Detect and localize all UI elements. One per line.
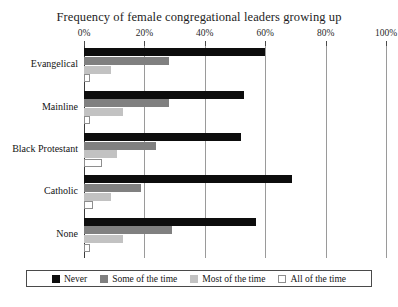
legend-item[interactable]: Most of the time	[190, 274, 265, 284]
category-group: Black Protestant	[84, 131, 386, 173]
x-tick-label-80pct: 80%	[317, 28, 334, 38]
legend-label: Never	[64, 274, 87, 284]
chart-title: Frequency of female congregational leade…	[0, 10, 398, 25]
legend-item[interactable]: Never	[52, 274, 87, 284]
bar	[84, 150, 117, 158]
legend-swatch-icon	[52, 275, 60, 283]
x-tick-label-0pct: 0%	[78, 28, 91, 38]
bar	[84, 66, 111, 74]
gridline-100	[386, 46, 387, 258]
x-tick-label-60pct: 60%	[256, 28, 273, 38]
bar	[84, 226, 172, 234]
legend-label: All of the time	[290, 274, 346, 284]
x-tick-label-40pct: 40%	[196, 28, 213, 38]
x-tick-label-100pct: 100%	[375, 28, 397, 38]
bar	[84, 74, 90, 82]
bar	[84, 218, 256, 226]
chart-container: Frequency of female congregational leade…	[0, 0, 398, 307]
category-group: Evangelical	[84, 46, 386, 88]
bar	[84, 57, 169, 65]
y-axis-category-label: Mainline	[42, 101, 78, 112]
bar	[84, 99, 169, 107]
bar	[84, 116, 90, 124]
y-axis-category-label: Evangelical	[31, 58, 78, 69]
x-axis-tick-labels: 0%20%40%60%80%100%	[84, 28, 386, 42]
legend-item[interactable]: All of the time	[278, 274, 346, 284]
figure-caption	[0, 297, 398, 307]
legend-label: Some of the time	[112, 274, 177, 284]
legend-swatch-icon	[278, 275, 286, 283]
bar	[84, 142, 156, 150]
y-axis-category-label: None	[56, 228, 78, 239]
bar	[84, 193, 111, 201]
bar	[84, 184, 141, 192]
legend-swatch-icon	[190, 275, 198, 283]
bar	[84, 244, 90, 252]
legend-swatch-icon	[100, 275, 108, 283]
category-group: None	[84, 216, 386, 258]
bar	[84, 48, 265, 56]
bar	[84, 159, 102, 167]
legend-label: Most of the time	[202, 274, 265, 284]
category-group: Catholic	[84, 173, 386, 215]
y-axis-category-label: Black Protestant	[12, 143, 78, 154]
chart-legend: NeverSome of the timeMost of the timeAll…	[26, 270, 372, 287]
bar	[84, 175, 292, 183]
bar	[84, 235, 123, 243]
tick-mark-100	[386, 41, 387, 46]
x-tick-label-20pct: 20%	[136, 28, 153, 38]
legend-item[interactable]: Some of the time	[100, 274, 177, 284]
bar	[84, 91, 244, 99]
bar	[84, 201, 93, 209]
bar	[84, 133, 241, 141]
plot-area: EvangelicalMainlineBlack ProtestantCatho…	[84, 46, 386, 258]
y-axis-category-label: Catholic	[44, 185, 78, 196]
bar	[84, 108, 123, 116]
category-group: Mainline	[84, 88, 386, 130]
